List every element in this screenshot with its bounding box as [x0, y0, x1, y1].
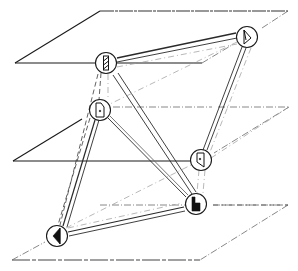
diagram-canvas [0, 0, 298, 271]
edge-d-e [197, 170, 205, 193]
node-a[interactable] [96, 53, 117, 74]
node-d[interactable] [191, 150, 212, 171]
node-c[interactable] [90, 100, 111, 121]
edge-a-e [113, 73, 196, 194]
node-e[interactable] [186, 194, 207, 215]
edge-a-f [60, 74, 108, 225]
edge-d-middle-corner [211, 107, 289, 158]
node-f[interactable] [47, 226, 68, 247]
edge-f-e [68, 203, 185, 236]
edge-a-c [99, 73, 101, 100]
edge-c-f [58, 118, 99, 227]
node-b[interactable] [237, 27, 258, 48]
edge-b-c [110, 42, 237, 104]
edge-a-b [117, 33, 237, 67]
layered-graph-diagram [0, 0, 298, 271]
